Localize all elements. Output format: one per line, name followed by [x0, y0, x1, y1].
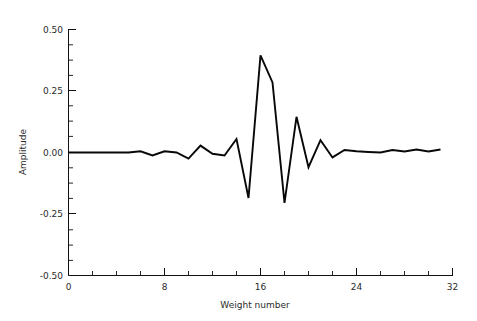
- x-tick-label: 32: [447, 282, 458, 292]
- x-tick-label: 0: [66, 282, 72, 292]
- wavelet-amplitude-chart: 0.50 0.25 0.00 -0.25 -0.50 0 8 16 24 32 …: [0, 0, 477, 321]
- y-tick-label: 0.00: [43, 148, 63, 158]
- x-axis-title: Weight number: [220, 300, 290, 310]
- x-tick-label: 16: [255, 282, 267, 292]
- x-tick-label: 8: [162, 282, 168, 292]
- y-tick-label: -0.50: [40, 271, 64, 281]
- x-tick-label: 24: [351, 282, 363, 292]
- y-tick-label: 0.50: [43, 25, 63, 35]
- y-tick-label: -0.25: [40, 209, 63, 219]
- chart-background: [0, 0, 477, 321]
- y-axis-title: Amplitude: [18, 128, 28, 175]
- y-tick-label: 0.25: [43, 86, 63, 96]
